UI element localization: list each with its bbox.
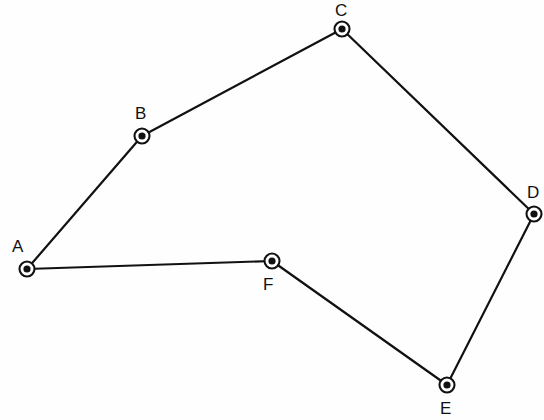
node-label-f: F [263, 276, 273, 293]
edge-f-a [27, 261, 272, 269]
node-a[interactable] [20, 262, 35, 277]
node-label-b: B [135, 105, 146, 122]
edge-d-e [447, 214, 534, 385]
edges-group [27, 29, 534, 385]
diagram-svg [0, 0, 544, 420]
node-label-c: C [335, 2, 347, 19]
node-dot-b[interactable] [138, 132, 145, 139]
edge-b-c [142, 29, 342, 136]
node-dot-e[interactable] [443, 381, 450, 388]
node-label-a: A [12, 238, 23, 255]
node-d[interactable] [527, 207, 542, 222]
edge-a-b [27, 136, 142, 269]
node-f[interactable] [265, 254, 280, 269]
nodes-group [20, 22, 542, 393]
node-dot-c[interactable] [338, 25, 345, 32]
node-b[interactable] [135, 129, 150, 144]
node-dot-a[interactable] [23, 265, 30, 272]
node-c[interactable] [335, 22, 350, 37]
node-label-d: D [527, 184, 539, 201]
node-dot-d[interactable] [530, 210, 537, 217]
node-dot-f[interactable] [268, 257, 275, 264]
edge-c-d [342, 29, 534, 214]
node-e[interactable] [440, 378, 455, 393]
diagram-canvas: ABCDEF [0, 0, 544, 420]
edge-e-f [272, 261, 447, 385]
node-label-e: E [440, 400, 451, 417]
